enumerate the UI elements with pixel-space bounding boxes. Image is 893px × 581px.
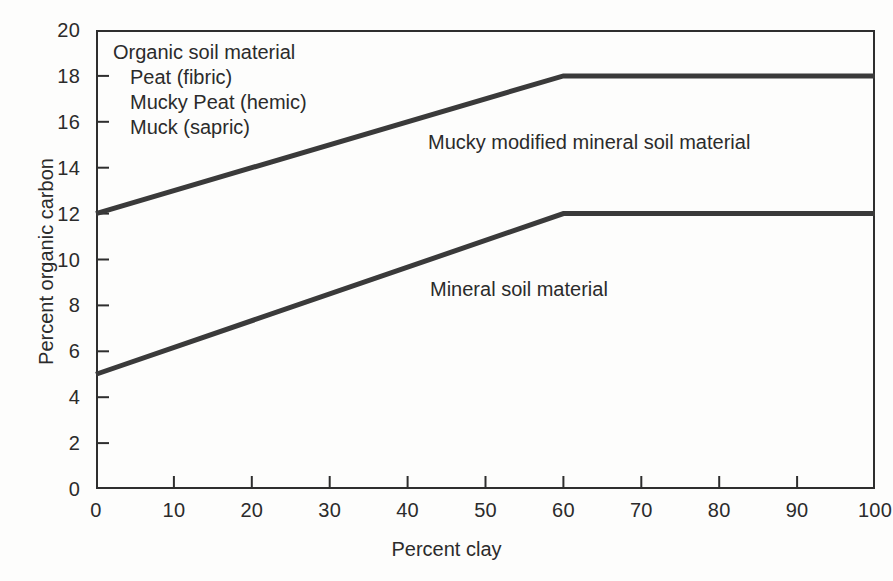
annotation-muck-sapric: Muck (sapric) <box>113 115 307 140</box>
x-tick-label: 50 <box>474 499 497 522</box>
series-label-mineral-soil-material: Mineral soil material <box>430 278 608 301</box>
x-tick-label: 70 <box>630 499 653 522</box>
x-tick-label: 10 <box>163 499 186 522</box>
x-tick-label: 30 <box>318 499 341 522</box>
x-tick-label: 0 <box>90 499 101 522</box>
x-tick-label: 40 <box>396 499 419 522</box>
annotation-peat-fibric: Peat (fibric) <box>113 65 307 90</box>
series-label-mucky-modified-mineral: Mucky modified mineral soil material <box>428 131 750 154</box>
x-axis-title: Percent clay <box>0 538 893 561</box>
chart-figure: 02468101214161820 0102030405060708090100… <box>0 0 893 581</box>
y-axis-title: Percent organic carbon <box>35 112 58 412</box>
x-tick-label: 60 <box>552 499 575 522</box>
annotation-organic-soil-material: Organic soil material <box>113 40 307 65</box>
x-tick-label: 80 <box>708 499 731 522</box>
x-tick-label: 20 <box>240 499 263 522</box>
annotation-mucky-peat-hemic: Mucky Peat (hemic) <box>113 90 307 115</box>
x-tick-label: 90 <box>786 499 809 522</box>
y-tick-label: 0 <box>30 478 80 501</box>
y-tick-label: 2 <box>30 432 80 455</box>
y-tick-label: 20 <box>30 19 80 42</box>
organic-soil-annotation-block: Organic soil material Peat (fibric) Muck… <box>113 40 307 140</box>
x-tick-label: 100 <box>858 499 892 522</box>
y-tick-label: 18 <box>30 64 80 87</box>
